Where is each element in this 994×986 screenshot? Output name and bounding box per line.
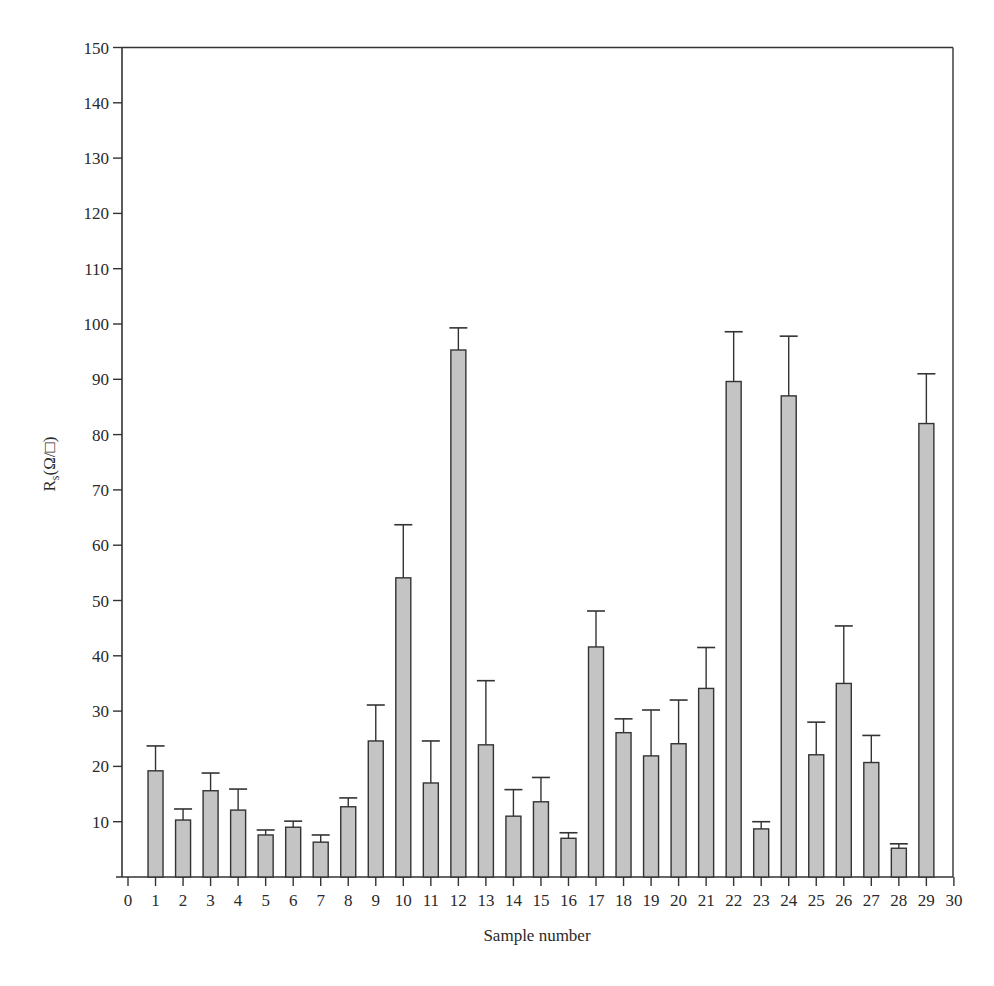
x-tick-label: 0 (124, 891, 133, 910)
y-tick-label: 20 (92, 757, 109, 776)
bar-sample-16 (561, 838, 576, 877)
x-tick-label: 10 (395, 891, 412, 910)
bar-chart: 102030405060708090100110120130140150 012… (0, 0, 994, 986)
y-tick-label: 70 (92, 481, 109, 500)
bar-sample-28 (891, 848, 906, 877)
y-tick-label: 110 (84, 260, 109, 279)
x-axis: 0123456789101112131415161718192021222324… (116, 877, 962, 910)
y-axis-title-main: R (40, 479, 59, 491)
bar-sample-11 (423, 783, 438, 877)
bar-sample-5 (258, 835, 273, 877)
x-tick-label: 22 (725, 891, 742, 910)
x-tick-label: 9 (372, 891, 381, 910)
bar-sample-19 (644, 756, 659, 877)
bar-sample-10 (396, 578, 411, 877)
bar-sample-21 (699, 688, 714, 877)
x-tick-label: 20 (670, 891, 687, 910)
bar-sample-18 (616, 733, 631, 877)
y-tick-label: 150 (84, 39, 110, 58)
bar-sample-29 (919, 424, 934, 877)
x-tick-label: 26 (835, 891, 852, 910)
y-tick-label: 140 (84, 94, 110, 113)
x-tick-label: 4 (234, 891, 243, 910)
y-tick-label: 60 (92, 536, 109, 555)
x-tick-label: 24 (780, 891, 798, 910)
bar-sample-25 (809, 755, 824, 877)
x-tick-label: 15 (532, 891, 549, 910)
x-tick-label: 21 (698, 891, 715, 910)
bar-sample-24 (781, 396, 796, 877)
x-tick-label: 30 (945, 891, 962, 910)
y-tick-label: 100 (84, 315, 110, 334)
x-tick-label: 27 (863, 891, 881, 910)
x-tick-label: 2 (179, 891, 188, 910)
x-tick-label: 8 (344, 891, 353, 910)
y-tick-label: 90 (92, 370, 109, 389)
x-axis-title: Sample number (483, 926, 591, 945)
x-tick-label: 25 (808, 891, 825, 910)
x-tick-label: 23 (753, 891, 770, 910)
y-tick-label: 130 (84, 149, 110, 168)
bar-sample-2 (176, 820, 191, 877)
bar-sample-13 (478, 745, 493, 877)
x-tick-label: 16 (560, 891, 577, 910)
x-tick-label: 12 (450, 891, 467, 910)
y-tick-label: 10 (92, 813, 109, 832)
x-tick-label: 6 (289, 891, 298, 910)
bar-sample-27 (864, 763, 879, 877)
y-tick-label: 50 (92, 592, 109, 611)
y-tick-label: 120 (84, 204, 110, 223)
y-tick-label: 80 (92, 426, 109, 445)
x-tick-label: 5 (261, 891, 270, 910)
plot-frame (122, 48, 953, 878)
y-axis: 102030405060708090100110120130140150 (84, 39, 123, 878)
x-tick-label: 18 (615, 891, 632, 910)
x-tick-label: 19 (643, 891, 660, 910)
x-tick-label: 28 (890, 891, 907, 910)
x-tick-label: 14 (505, 891, 523, 910)
x-tick-label: 11 (423, 891, 439, 910)
bar-sample-3 (203, 791, 218, 877)
bar-sample-14 (506, 816, 521, 877)
x-tick-label: 13 (477, 891, 494, 910)
y-tick-label: 30 (92, 702, 109, 721)
x-tick-label: 7 (316, 891, 325, 910)
bar-sample-12 (451, 350, 466, 877)
y-axis-title: Rs(Ω/□) (40, 437, 62, 492)
x-tick-label: 3 (206, 891, 215, 910)
chart-canvas: 102030405060708090100110120130140150 012… (0, 0, 994, 986)
x-tick-label: 1 (151, 891, 160, 910)
bar-sample-20 (671, 744, 686, 877)
x-tick-label: 17 (588, 891, 606, 910)
bar-sample-17 (589, 647, 604, 877)
bar-sample-8 (341, 807, 356, 877)
bar-sample-23 (754, 829, 769, 877)
y-tick-label: 40 (92, 647, 109, 666)
bar-sample-4 (231, 810, 246, 877)
bar-sample-15 (533, 802, 548, 877)
bar-sample-7 (313, 842, 328, 877)
bar-sample-1 (148, 771, 163, 877)
bar-sample-26 (836, 683, 851, 877)
bar-sample-9 (368, 741, 383, 877)
x-tick-label: 29 (918, 891, 935, 910)
y-axis-title-unit: (Ω/□) (40, 437, 59, 476)
bar-sample-6 (286, 827, 301, 877)
bar-sample-22 (726, 382, 741, 877)
